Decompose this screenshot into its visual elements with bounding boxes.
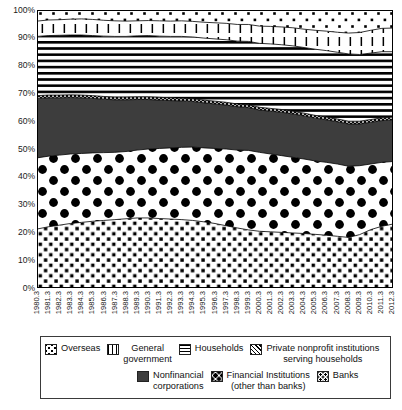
y-axis-tick-label: 40% [2, 172, 35, 181]
x-axis-tick-label: 2002.3 [277, 291, 285, 314]
x-axis-tick-label: 1996.3 [211, 291, 219, 314]
x-axis-tick-label: 1990.3 [144, 291, 152, 314]
legend-item[interactable]: Nonfinancial corporations [137, 370, 204, 391]
x-axis-tick-label: 1985.3 [88, 291, 96, 314]
legend-item[interactable]: Financial Institutions (other than banks… [211, 370, 310, 391]
x-axis-tick-label: 1995.3 [199, 291, 207, 314]
x-axis-tick-label: 1984.3 [77, 291, 85, 314]
legend-item-label: General government [123, 343, 172, 364]
x-axis-tick-label: 2009.3 [355, 291, 363, 314]
horizontal-lines-swatch-icon [179, 344, 191, 355]
plot-svg [37, 10, 393, 288]
x-axis-tick-label: 2011.3 [377, 291, 385, 314]
legend-item[interactable]: Overseas [45, 343, 100, 355]
legend-item-label: Financial Institutions (other than banks… [227, 370, 310, 391]
x-axis-tick-label: 1986.3 [100, 291, 108, 314]
x-axis-tick-label: 1987.3 [111, 291, 119, 314]
plot-area [37, 10, 393, 288]
x-axis-tick-label: 1983.3 [66, 291, 74, 314]
y-axis-tick-label: 60% [2, 117, 35, 126]
x-axis-tick-label: 2006.3 [321, 291, 329, 314]
x-axis-tick-label: 1982.3 [55, 291, 63, 314]
x-axis: 1980.31981.31982.31983.31984.31985.31986… [37, 289, 393, 331]
x-axis-tick-label: 2003.3 [288, 291, 296, 314]
cross-hatch-swatch-icon [250, 344, 262, 355]
x-axis-tick-label: 1989.3 [133, 291, 141, 314]
legend-item[interactable]: Households [179, 343, 244, 355]
x-axis-tick-label: 1998.3 [233, 291, 241, 314]
y-axis-tick-label: 100% [2, 6, 35, 15]
legend-item-label: Households [195, 343, 244, 354]
legend-item-label: Overseas [61, 343, 100, 354]
x-axis-tick-label: 2001.3 [266, 291, 274, 314]
x-axis-tick-label: 1999.3 [244, 291, 252, 314]
x-axis-tick-label: 2004.3 [299, 291, 307, 314]
y-axis-tick-label: 10% [2, 256, 35, 265]
x-axis-tick-label: 2008.3 [344, 291, 352, 314]
x-axis-tick-label: 1992.3 [166, 291, 174, 314]
x-axis-tick-label: 1993.3 [177, 291, 185, 314]
legend-item-label: Nonfinancial corporations [153, 370, 204, 391]
x-axis-tick-label: 2005.3 [310, 291, 318, 314]
x-axis-tick-label: 2010.3 [366, 291, 374, 314]
x-axis-tick-label: 1988.3 [122, 291, 130, 314]
x-axis-tick-label: 1991.3 [155, 291, 163, 314]
x-axis-tick-label: 1980.3 [33, 291, 41, 314]
y-axis-tick-label: 20% [2, 228, 35, 237]
vertical-dashes-swatch-icon [107, 344, 119, 355]
legend-item-label: Banks [333, 370, 359, 381]
y-axis-tick-label: 0% [2, 284, 35, 293]
x-axis-tick-label: 1981.3 [44, 291, 52, 314]
legend-item[interactable]: Private nonprofit institutions serving h… [250, 343, 379, 364]
legend-row: OverseasGeneral governmentHouseholdsPriv… [45, 343, 386, 364]
y-axis: 0%10%20%30%40%50%60%70%80%90%100% [0, 0, 35, 298]
x-axis-tick-label: 2012.3 [388, 291, 396, 314]
y-axis-tick-label: 50% [2, 145, 35, 154]
y-axis-tick-label: 30% [2, 200, 35, 209]
y-axis-tick-label: 80% [2, 61, 35, 70]
solid-dark-swatch-icon [137, 371, 149, 382]
x-axis-tick-label: 2000.3 [255, 291, 263, 314]
large-dots-swatch-icon [211, 371, 223, 382]
chart-legend: OverseasGeneral governmentHouseholdsPriv… [40, 336, 391, 399]
stacked-area-chart: 0%10%20%30%40%50%60%70%80%90%100% [0, 0, 402, 410]
legend-row: Nonfinancial corporationsFinancial Insti… [137, 370, 365, 391]
y-axis-tick-label: 70% [2, 89, 35, 98]
legend-item[interactable]: Banks [317, 370, 359, 382]
x-axis-tick-label: 1994.3 [188, 291, 196, 314]
legend-item-label: Private nonprofit institutions serving h… [266, 343, 379, 364]
y-axis-tick-label: 90% [2, 33, 35, 42]
scatter-dots-swatch-icon [45, 344, 57, 355]
small-dots-swatch-icon [317, 371, 329, 382]
legend-item[interactable]: General government [107, 343, 172, 364]
x-axis-tick-label: 2007.3 [333, 291, 341, 314]
x-axis-tick-label: 1997.3 [222, 291, 230, 314]
